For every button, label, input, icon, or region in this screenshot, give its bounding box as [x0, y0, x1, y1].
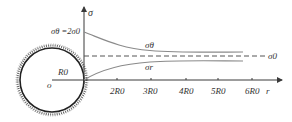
- sigma-theta-label: σθ: [145, 40, 154, 50]
- stress-diagram: σ σθ =2σ0 σθ σr σ0 R0 o r 2R0 3R0 4R0 5R…: [0, 0, 292, 122]
- tick-labels: 2R0 3R0 4R0 5R0 6R0: [110, 86, 260, 96]
- sigma0-label: σ0: [268, 51, 277, 61]
- sigma-axis-label: σ: [88, 7, 94, 18]
- r-axis-label: r: [266, 86, 270, 96]
- tick-label-4r0: 4R0: [179, 86, 194, 96]
- tick-label-2r0: 2R0: [110, 86, 125, 96]
- peak-stress-label: σθ =2σ0: [51, 26, 81, 36]
- tick-label-3r0: 3R0: [142, 86, 158, 96]
- sigma-r-label: σr: [145, 62, 153, 72]
- radius-label: R0: [57, 67, 68, 77]
- tick-label-5r0: 5R0: [211, 86, 226, 96]
- origin-label: o: [47, 80, 52, 90]
- tick-label-6r0: 6R0: [245, 86, 260, 96]
- sigma-r-curve: [84, 61, 243, 80]
- sigma-theta-curve: [84, 32, 243, 52]
